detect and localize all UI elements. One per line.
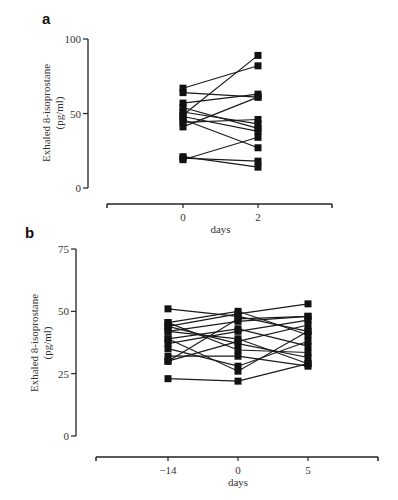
data-point-marker (255, 144, 262, 151)
data-point-marker (255, 158, 262, 165)
x-tick-label: 0 (180, 211, 186, 223)
y-axis-title: Exhaled 8-isoprostane(pg/ml) (40, 64, 66, 162)
data-point-marker (255, 134, 262, 141)
data-point-marker (180, 119, 187, 126)
data-point-marker (165, 358, 172, 365)
data-point-marker (255, 62, 262, 69)
y-tick-label: 0 (76, 182, 82, 194)
x-tick-label: 0 (235, 464, 241, 476)
data-point-marker (235, 346, 242, 353)
data-point-marker (255, 128, 262, 135)
data-point-marker (180, 155, 187, 162)
data-point-marker (305, 349, 312, 356)
y-axis-title: Exhaled 8-isoprostane(pg/ml) (28, 294, 54, 392)
data-point-marker (255, 52, 262, 59)
y-tick-label: 75 (58, 243, 70, 255)
data-point-marker (235, 378, 242, 385)
data-point-marker (305, 360, 312, 367)
y-tick-label: 0 (64, 430, 70, 442)
data-point-marker (305, 313, 312, 320)
chart-b: 0255075Exhaled 8-isoprostane(pg/ml)−1405… (28, 243, 378, 488)
y-tick-label: 50 (70, 108, 82, 120)
data-point-marker (305, 322, 312, 329)
y-tick-label: 50 (58, 305, 70, 317)
data-point-marker (165, 305, 172, 312)
data-point-marker (305, 328, 312, 335)
x-axis-title: days (228, 476, 248, 488)
data-point-marker (235, 353, 242, 360)
data-point-marker (165, 335, 172, 342)
data-point-marker (255, 94, 262, 101)
data-point-marker (235, 338, 242, 345)
data-point-marker (180, 89, 187, 96)
data-point-marker (165, 319, 172, 326)
data-point-marker (235, 328, 242, 335)
figure-canvas: 050100Exhaled 8-isoprostane(pg/ml)02days… (0, 0, 398, 500)
data-point-marker (235, 315, 242, 322)
data-point-marker (255, 116, 262, 123)
x-axis-title: days (210, 223, 230, 235)
chart-a: 050100Exhaled 8-isoprostane(pg/ml)02days (40, 33, 332, 235)
data-point-marker (165, 345, 172, 352)
data-point-marker (235, 368, 242, 375)
x-tick-label: 5 (305, 464, 311, 476)
y-tick-label: 25 (58, 368, 70, 380)
data-point-marker (165, 328, 172, 335)
x-tick-label: −14 (159, 464, 177, 476)
data-point-marker (305, 338, 312, 345)
series-line (183, 137, 258, 159)
x-tick-label: 2 (255, 211, 261, 223)
y-tick-label: 100 (65, 33, 82, 45)
data-point-marker (165, 375, 172, 382)
series-line (183, 158, 258, 161)
data-point-marker (305, 300, 312, 307)
data-point-marker (255, 164, 262, 171)
